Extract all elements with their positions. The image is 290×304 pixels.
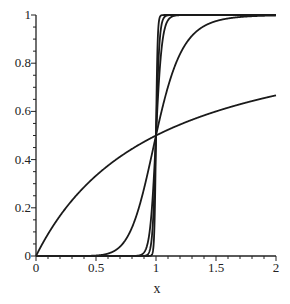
y-tick-label: 0.8 [15,55,31,70]
y-tick-label: 0.6 [15,103,32,118]
y-axis-ticks: 00.20.40.60.81 [15,7,36,263]
y-tick-label: 1 [25,7,32,22]
x-tick-label: 2 [273,260,280,275]
x-axis-title: x [154,281,161,296]
x-tick-label: 0.5 [88,260,104,275]
curve-n-150 [36,15,276,256]
y-tick-label: 0.4 [15,152,32,167]
x-tick-label: 1 [153,260,160,275]
x-axis-ticks: 00.511.52 [33,256,280,275]
plot-curves [36,15,276,256]
y-tick-label: 0 [25,248,32,263]
y-tick-label: 0.2 [15,200,31,215]
x-tick-label: 0 [33,260,40,275]
line-chart: 00.511.52 00.20.40.60.81 x [0,0,290,304]
x-tick-label: 1.5 [208,260,224,275]
